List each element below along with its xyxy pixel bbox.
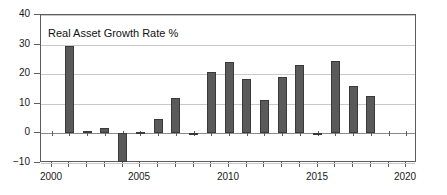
chart-title: Real Asset Growth Rate %: [48, 27, 178, 40]
x-tick-label-2000: 2000: [31, 171, 71, 182]
bar-2018: [366, 96, 375, 134]
zero-axis-tick-2019: [389, 131, 390, 136]
y-tick-label--10: −10: [0, 157, 30, 167]
bar-2012: [260, 100, 269, 133]
bar-2014: [295, 65, 304, 134]
bar-2004: [118, 133, 127, 161]
bar-2009: [207, 72, 216, 134]
bar-2008: [189, 133, 198, 135]
y-tick-label-10: 10: [0, 98, 30, 108]
x-tick-label-2020: 2020: [385, 171, 425, 182]
y-tick-label-0: 0: [0, 127, 30, 137]
gridline-30: [41, 45, 415, 46]
zero-axis-tick-2000: [52, 131, 53, 136]
gridline-40: [41, 15, 415, 16]
bar-2007: [171, 98, 180, 133]
gridline--10: [41, 163, 415, 164]
bar-2017: [349, 86, 358, 133]
x-tick-label-2010: 2010: [208, 171, 248, 182]
bar-2015: [313, 133, 322, 135]
x-tick-label-2005: 2005: [119, 171, 159, 182]
bar-2002: [83, 131, 92, 133]
y-tick-label-20: 20: [0, 68, 30, 78]
bar-2003: [100, 128, 109, 133]
bar-2001: [65, 46, 74, 133]
bar-2005: [136, 132, 145, 134]
y-tick-label-40: 40: [0, 9, 30, 19]
y-tick--10: [34, 162, 40, 163]
bar-2016: [331, 61, 340, 134]
x-tick-label-2015: 2015: [297, 171, 337, 182]
bar-2006: [154, 119, 163, 133]
bar-2010: [225, 62, 234, 134]
y-tick-label-30: 30: [0, 39, 30, 49]
bar-2013: [278, 77, 287, 134]
real-asset-growth-rate-chart: 403020100−10 20002005201020152020 Real A…: [0, 0, 447, 195]
bar-2011: [242, 79, 251, 133]
zero-axis-tick-2020: [406, 131, 407, 136]
